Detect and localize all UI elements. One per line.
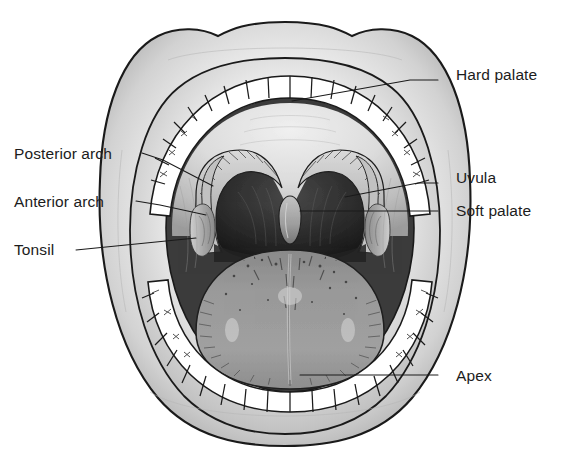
anatomy-illustration: Hard palate Uvula Soft palate Apex Poste… — [0, 0, 570, 450]
oral-cavity-figure: Hard palate Uvula Soft palate Apex Poste… — [0, 0, 570, 450]
label-hard-palate: Hard palate — [456, 66, 537, 83]
label-apex: Apex — [456, 367, 492, 384]
label-tonsil: Tonsil — [14, 241, 54, 258]
label-soft-palate: Soft palate — [456, 202, 531, 219]
label-anterior-arch: Anterior arch — [14, 193, 104, 210]
tonsil-right — [365, 204, 390, 256]
tongue-group — [196, 249, 384, 389]
oral-cavity-group — [164, 96, 416, 392]
label-posterior-arch: Posterior arch — [14, 145, 112, 162]
label-uvula: Uvula — [456, 169, 496, 186]
uvula-shape — [279, 196, 301, 244]
